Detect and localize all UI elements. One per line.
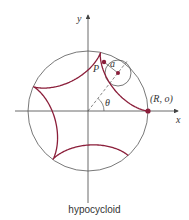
radius-a-label: a xyxy=(110,58,115,69)
y-axis-label: y xyxy=(76,13,82,24)
start-point-dot xyxy=(145,108,150,113)
hypocycloid-figure: y x P a θ (R, o) xyxy=(0,0,189,220)
small-circle-center-dot xyxy=(116,71,120,75)
angle-theta-label: θ xyxy=(105,97,110,108)
point-p-label: P xyxy=(92,63,99,74)
x-axis-label: x xyxy=(175,114,181,125)
start-point-label: (R, o) xyxy=(150,93,173,105)
figure-caption: hypocycloid xyxy=(0,204,189,215)
point-p-dot xyxy=(102,60,106,64)
angle-arc xyxy=(98,99,104,112)
